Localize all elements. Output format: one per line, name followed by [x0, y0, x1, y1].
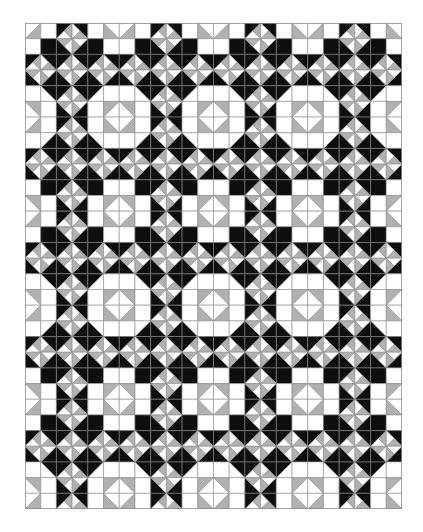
quilt-grid: [25, 23, 402, 509]
quilt-pattern: [25, 23, 402, 509]
